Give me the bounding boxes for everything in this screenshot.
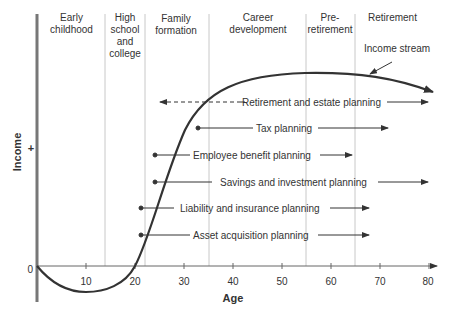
x-tick-label: 30 (178, 276, 190, 287)
x-tick-label: 80 (422, 276, 434, 287)
planning-label-tax: Tax planning (256, 123, 312, 134)
income-stream-label: Income stream (364, 43, 430, 54)
planning-label-savings-investment: Savings and investment planning (220, 177, 367, 188)
planning-labels: Retirement and estate planning Tax plann… (180, 97, 381, 241)
y-axis-label: Income (11, 133, 23, 172)
planning-label-retirement-estate: Retirement and estate planning (242, 97, 381, 108)
x-tick-label: 60 (325, 276, 337, 287)
x-axis-label: Age (223, 292, 244, 304)
x-tick-label: 10 (80, 276, 92, 287)
life-cycle-diagram: 10 20 30 40 50 60 70 80 0 Age Income + (0, 0, 450, 315)
y-zero-label: 0 (27, 264, 33, 275)
planning-label-employee-benefit: Employee benefit planning (193, 150, 311, 161)
x-tick-label: 70 (374, 276, 386, 287)
x-tick-label: 20 (129, 276, 141, 287)
y-axis-plus: + (28, 142, 34, 154)
income-stream-pointer (370, 62, 392, 74)
planning-label-asset-acquisition: Asset acquisition planning (193, 230, 309, 241)
x-tick-label: 50 (276, 276, 288, 287)
x-tick-labels: 10 20 30 40 50 60 70 80 (80, 276, 434, 287)
planning-label-liability-insurance: Liability and insurance planning (180, 203, 320, 214)
x-tick-label: 40 (227, 276, 239, 287)
stage-dividers (105, 14, 355, 266)
